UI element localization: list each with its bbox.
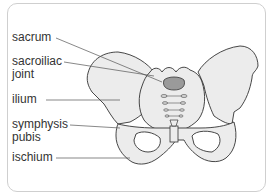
label-sacrum: sacrum	[12, 31, 51, 44]
symphysis-leader	[70, 125, 120, 128]
label-ischium: ischium	[12, 151, 53, 164]
label-ilium: ilium	[12, 93, 37, 106]
right-ilium	[198, 46, 258, 124]
pubic-symphysis	[170, 126, 178, 142]
label-symphysis-pubis: pubis	[12, 131, 41, 144]
sacral-promontory	[163, 77, 184, 90]
label-sacroiliac-joint: joint	[12, 68, 34, 81]
